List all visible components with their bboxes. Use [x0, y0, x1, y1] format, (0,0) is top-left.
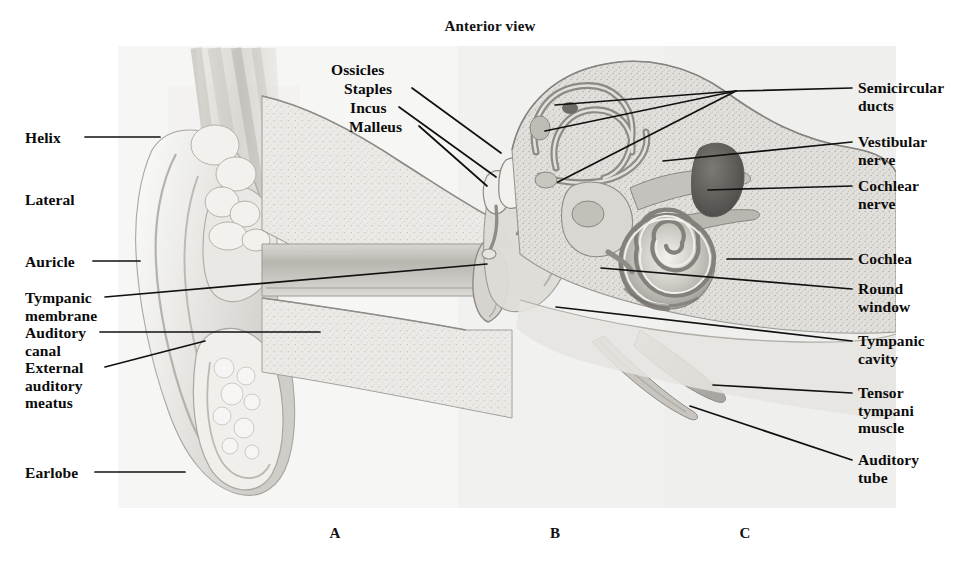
label-staples: Staples	[344, 80, 392, 98]
figure-root: Anterior view HelixLateralAuricleTympani…	[0, 0, 980, 562]
label-round-window: Round window	[858, 280, 910, 315]
label-helix: Helix	[25, 129, 61, 147]
label-incus: Incus	[350, 99, 387, 117]
label-ossicles: Ossicles	[331, 61, 384, 79]
label-cochlear-nerve: Cochlear nerve	[858, 177, 919, 212]
label-tympanic-membrane: Tympanic membrane	[25, 289, 97, 324]
label-tympanic-cavity: Tympanic cavity	[858, 332, 925, 367]
label-tensor-tympani-muscle: Tensor tympani muscle	[858, 384, 914, 437]
label-external-auditory-meatus: External auditory meatus	[25, 359, 84, 412]
label-auricle: Auricle	[25, 253, 75, 271]
ear-anatomy-illustration	[0, 0, 980, 562]
label-lateral: Lateral	[25, 191, 75, 209]
panel-letter-c: C	[730, 525, 760, 542]
label-vestibular-nerve: Vestibular nerve	[858, 133, 927, 168]
label-earlobe: Earlobe	[25, 464, 78, 482]
panel-letter-b: B	[540, 525, 570, 542]
label-auditory-tube: Auditory tube	[858, 451, 919, 486]
panel-letter-a: A	[320, 525, 350, 542]
label-semicircular-ducts: Semicircular ducts	[858, 79, 944, 114]
label-auditory-canal: Auditory canal	[25, 324, 86, 359]
label-cochlea: Cochlea	[858, 250, 912, 268]
figure-title: Anterior view	[0, 18, 980, 35]
label-malleus: Malleus	[349, 118, 402, 136]
